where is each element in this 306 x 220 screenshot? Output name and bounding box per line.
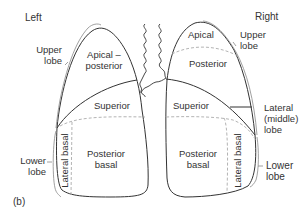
left-upper-lobe-label: Upper lobe: [32, 44, 62, 66]
right-posterior-basal-line2: basal: [176, 159, 220, 170]
left-posterior-basal-line1: Posterior: [84, 148, 128, 159]
right-posterior-basal-label: Posterior basal: [176, 148, 220, 170]
panel-label: (b): [13, 196, 25, 207]
left-superior-basal-boundary: [60, 117, 145, 126]
right-bronchus: [141, 24, 166, 93]
left-posterior-basal-line2: basal: [84, 159, 128, 170]
apical-posterior-line2: posterior: [84, 60, 124, 71]
left-lateral-basal-boundary: [71, 122, 72, 196]
right-upper-lobe-tick: [233, 42, 236, 46]
right-lower-lobe-line2: lobe: [266, 171, 293, 182]
right-middle-lobe-line2: (middle): [264, 113, 298, 124]
right-lateral-basal-label: Lateral basal: [232, 131, 243, 191]
right-posterior-basal-line1: Posterior: [176, 148, 220, 159]
right-apical-posterior-boundary: [172, 47, 238, 56]
right-upper-lobe-line2: lobe: [240, 40, 266, 51]
right-apical-label: Apical: [188, 29, 214, 40]
left-apical-posterior-label: Apical – posterior: [84, 49, 124, 71]
right-lower-lobe-line1: Lower: [266, 160, 293, 171]
right-upper-lobe-line1: Upper: [240, 29, 266, 40]
left-lower-lobe-line1: Lower: [16, 155, 46, 166]
right-posterior-label: Posterior: [189, 58, 227, 69]
right-superior-label: Superior: [173, 100, 209, 111]
right-side-label: Right: [255, 11, 278, 22]
left-superior-label: Superior: [94, 100, 130, 111]
right-middle-lobe-label: Lateral (middle) lobe: [264, 102, 298, 135]
left-upper-lobe-line1: Upper: [32, 44, 62, 55]
right-lower-lobe-bracket: [250, 137, 258, 187]
left-upper-lobe-bracket: [56, 24, 101, 128]
left-upper-lobe-tick: [65, 62, 68, 65]
left-bronchus: [140, 24, 146, 97]
left-posterior-basal-label: Posterior basal: [84, 148, 128, 170]
left-lower-lobe-line2: lobe: [16, 166, 46, 177]
left-lower-lobe-label: Lower lobe: [16, 155, 46, 177]
right-upper-lobe-label: Upper lobe: [240, 29, 266, 51]
right-lateral-basal-boundary: [224, 118, 228, 192]
right-middle-lobe-line1: Lateral: [264, 102, 298, 113]
left-lateral-basal-label: Lateral basal: [59, 131, 70, 191]
right-middle-lobe-line3: lobe: [264, 124, 298, 135]
left-upper-lobe-line2: lobe: [32, 55, 62, 66]
apical-posterior-line1: Apical –: [84, 49, 124, 60]
right-lower-lobe-label: Lower lobe: [266, 160, 293, 182]
left-side-label: Left: [25, 12, 42, 23]
